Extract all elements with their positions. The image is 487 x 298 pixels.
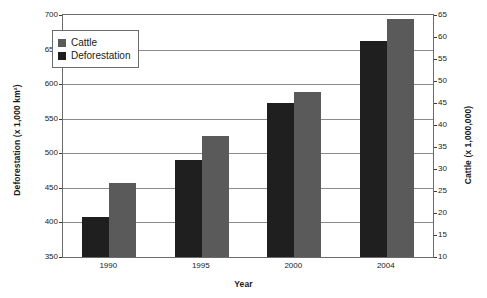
- legend-swatch-deforestation: [58, 52, 66, 60]
- y-tick-right: 50: [438, 76, 464, 85]
- legend-label-cattle: Cattle: [71, 37, 97, 48]
- y-tick-right: 65: [438, 10, 464, 19]
- y-tick-left: 350: [32, 252, 58, 261]
- y-tick-left: 700: [32, 10, 58, 19]
- y-tick-right: 35: [438, 142, 464, 151]
- bar-cattle: [387, 19, 414, 257]
- chart-legend: Cattle Deforestation: [52, 30, 139, 68]
- y-tick-right: 45: [438, 98, 464, 107]
- x-axis-title: Year: [0, 279, 487, 289]
- y-tick-left: 600: [32, 79, 58, 88]
- bar-deforestation: [82, 217, 109, 257]
- x-tick-label: 2000: [273, 261, 313, 270]
- y-axis-right-ticks: 101520253035404550556065: [438, 14, 464, 258]
- bar-cattle: [109, 183, 136, 257]
- legend-swatch-cattle: [58, 39, 66, 47]
- x-tick-label: 1990: [88, 261, 128, 270]
- y-tick-right: 10: [438, 252, 464, 261]
- y-tick-right: 30: [438, 164, 464, 173]
- y-tick-right: 40: [438, 120, 464, 129]
- y-tick-right: 55: [438, 54, 464, 63]
- x-tick-label: 2004: [366, 261, 406, 270]
- y-axis-right-title: Cattle (x 1,000,000): [463, 65, 473, 225]
- legend-label-deforestation: Deforestation: [71, 50, 130, 61]
- y-axis-left-title: Deforestation (x 1,000 km²): [12, 60, 22, 220]
- legend-item-deforestation: Deforestation: [58, 50, 130, 61]
- y-tick-right: 20: [438, 208, 464, 217]
- bar-cattle: [294, 92, 321, 257]
- bar-group: [341, 15, 434, 257]
- bar-group: [248, 15, 341, 257]
- bar-deforestation: [175, 160, 202, 257]
- y-tick-left: 550: [32, 114, 58, 123]
- y-tick-right: 15: [438, 230, 464, 239]
- y-tick-left: 500: [32, 148, 58, 157]
- bar-group: [156, 15, 249, 257]
- x-axis-tick-labels: 1990199520002004: [62, 261, 434, 275]
- bar-deforestation: [267, 103, 294, 257]
- y-tick-left: 400: [32, 217, 58, 226]
- chart-container: Deforestation (x 1,000 km²) Cattle (x 1,…: [0, 0, 487, 298]
- legend-item-cattle: Cattle: [58, 37, 130, 48]
- y-tick-left: 450: [32, 183, 58, 192]
- y-tick-right: 25: [438, 186, 464, 195]
- bar-deforestation: [360, 41, 387, 257]
- bar-cattle: [202, 136, 229, 257]
- x-tick-label: 1995: [181, 261, 221, 270]
- y-tick-right: 60: [438, 32, 464, 41]
